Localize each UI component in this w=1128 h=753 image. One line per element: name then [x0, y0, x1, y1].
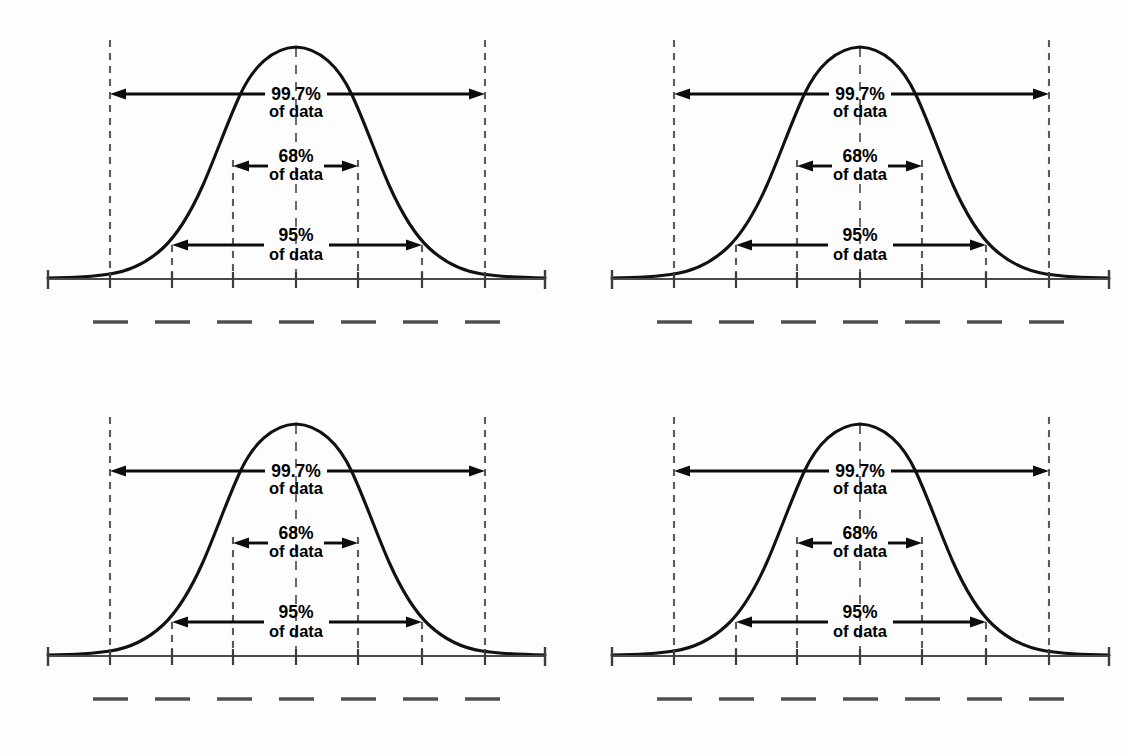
- band-95-sublabel: of data: [833, 245, 888, 263]
- band-95-arrowhead-right: [406, 617, 422, 628]
- band-997-annotation: 99.7% of data: [110, 461, 485, 498]
- band-997-arrowhead-right: [1033, 466, 1049, 477]
- band-68-percent: 68%: [842, 146, 877, 166]
- band-997-annotation: 99.7% of data: [110, 84, 485, 121]
- band-95-arrowhead-right: [970, 617, 986, 628]
- band-997-sublabel: of data: [833, 102, 888, 120]
- band-95-percent: 95%: [278, 225, 313, 245]
- band-68-percent: 68%: [278, 146, 313, 166]
- band-95-annotation: 95% of data: [736, 602, 986, 641]
- band-68-sublabel: of data: [269, 165, 324, 183]
- band-95-annotation: 95% of data: [172, 225, 422, 264]
- band-68-arrowhead-right: [342, 538, 358, 549]
- band-95-annotation: 95% of data: [736, 225, 986, 264]
- band-68-percent: 68%: [842, 523, 877, 543]
- band-68-annotation: 68% of data: [233, 146, 358, 184]
- band-997-percent: 99.7%: [271, 461, 321, 481]
- panel-bottom-right: 99.7% of data 68% of data 95% of data: [564, 377, 1128, 753]
- band-997-arrowhead-right: [469, 89, 485, 100]
- band-95-arrowhead-left: [736, 617, 752, 628]
- band-997-arrowhead-left: [110, 466, 126, 477]
- band-95-arrowhead-right: [406, 240, 422, 251]
- band-95-arrowhead-left: [172, 240, 188, 251]
- band-68-annotation: 68% of data: [233, 523, 358, 561]
- panel-top-left: 99.7% of data 68% of data 95% of data: [0, 0, 564, 376]
- band-68-percent: 68%: [278, 523, 313, 543]
- band-95-percent: 95%: [842, 225, 877, 245]
- band-68-arrowhead-right: [342, 161, 358, 172]
- panel-top-right: 99.7% of data 68% of data 95% of data: [564, 0, 1128, 376]
- band-997-arrowhead-right: [469, 466, 485, 477]
- band-95-sublabel: of data: [269, 245, 324, 263]
- band-997-arrowhead-right: [1033, 89, 1049, 100]
- band-95-sublabel: of data: [269, 622, 324, 640]
- band-997-sublabel: of data: [269, 102, 324, 120]
- band-997-percent: 99.7%: [835, 461, 885, 481]
- band-95-arrowhead-left: [172, 617, 188, 628]
- band-68-annotation: 68% of data: [797, 146, 922, 184]
- band-997-annotation: 99.7% of data: [674, 461, 1049, 498]
- band-95-percent: 95%: [842, 602, 877, 622]
- band-68-arrowhead-right: [906, 538, 922, 549]
- band-997-annotation: 99.7% of data: [674, 84, 1049, 121]
- band-68-sublabel: of data: [833, 542, 888, 560]
- band-997-arrowhead-left: [674, 466, 690, 477]
- panel-bottom-left: 99.7% of data 68% of data 95% of data: [0, 377, 564, 753]
- band-68-sublabel: of data: [833, 165, 888, 183]
- band-997-percent: 99.7%: [835, 84, 885, 104]
- band-997-arrowhead-left: [110, 89, 126, 100]
- band-68-arrowhead-left: [797, 161, 813, 172]
- band-95-percent: 95%: [278, 602, 313, 622]
- band-68-annotation: 68% of data: [797, 523, 922, 561]
- band-95-arrowhead-left: [736, 240, 752, 251]
- band-997-percent: 99.7%: [271, 84, 321, 104]
- band-95-sublabel: of data: [833, 622, 888, 640]
- band-68-arrowhead-left: [233, 538, 249, 549]
- band-68-arrowhead-left: [797, 538, 813, 549]
- figure-canvas: 99.7% of data 68% of data 95% of data: [0, 0, 1128, 753]
- band-997-sublabel: of data: [833, 479, 888, 497]
- band-68-arrowhead-left: [233, 161, 249, 172]
- band-997-sublabel: of data: [269, 479, 324, 497]
- band-68-sublabel: of data: [269, 542, 324, 560]
- band-68-arrowhead-right: [906, 161, 922, 172]
- band-95-arrowhead-right: [970, 240, 986, 251]
- band-997-arrowhead-left: [674, 89, 690, 100]
- band-95-annotation: 95% of data: [172, 602, 422, 641]
